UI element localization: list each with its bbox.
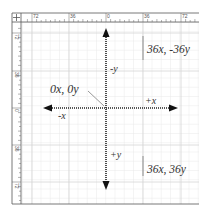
left-ruler-label: 72 (14, 183, 19, 189)
neg-x-label: -x (58, 111, 66, 121)
left-ruler-label: 36 (14, 146, 19, 152)
top-ruler-label: 36 (144, 14, 150, 19)
pos-x-label: +x (145, 96, 156, 106)
top-ruler-ticks (27, 13, 195, 22)
top-ruler-label: 72 (182, 14, 188, 19)
left-ruler-ticks (12, 28, 21, 200)
left-ruler-label: 36 (14, 72, 19, 78)
pos-y-label: +y (110, 150, 121, 160)
top-ruler-label: 36 (70, 14, 76, 19)
lower-right-point-label: 36x, 36y (147, 164, 186, 176)
neg-y-label: -y (110, 64, 118, 74)
diagram-graphics (0, 0, 199, 214)
origin-label: 0x, 0y (50, 83, 79, 95)
upper-right-point-label: 36x, -36y (147, 44, 190, 56)
left-ruler-label: 0 (14, 109, 19, 112)
top-ruler-label: 0 (107, 14, 110, 19)
top-ruler-label: 72 (33, 14, 39, 19)
left-ruler-label: 72 (14, 34, 19, 40)
